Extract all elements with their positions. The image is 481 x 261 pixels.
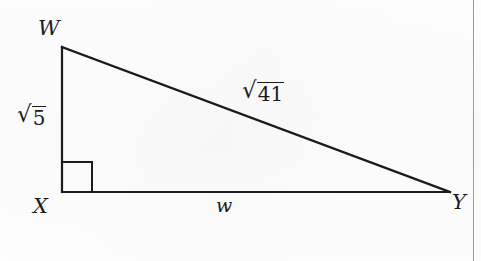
vertex-label-y: Y [452,192,466,213]
geometry-figure: W X Y √ 5 √ 41 w [0,0,481,261]
vertex-label-x: X [33,196,48,217]
radical-expression-sqrt41: √ 41 [242,80,284,104]
radicand-value: 5 [32,106,47,128]
triangle-side-wy [62,47,450,192]
side-label-hypotenuse-wy: √ 41 [242,80,284,104]
right-angle-marker [62,162,92,192]
page-edge-divider [473,0,474,261]
triangle-drawing [0,0,481,261]
side-label-leg-wx: √ 5 [17,104,46,128]
radical-sign-icon: √ [17,104,32,125]
radicand-value: 41 [257,82,284,104]
side-label-base-xy: w [216,196,232,215]
radical-expression-sqrt5: √ 5 [17,104,46,128]
vertex-label-w: W [38,18,60,39]
radical-sign-icon: √ [242,80,257,101]
